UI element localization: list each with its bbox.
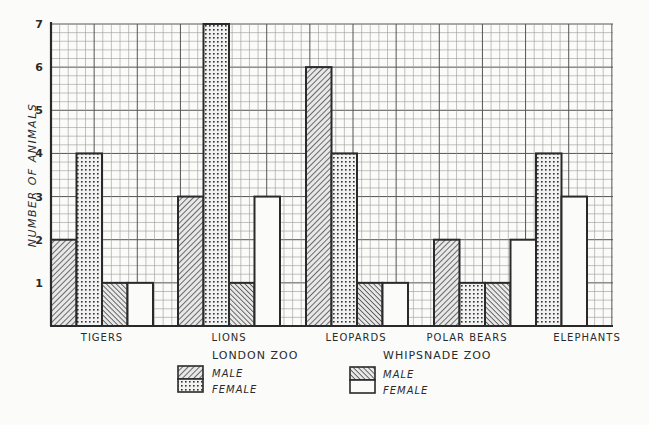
x-tick-label: LEOPARDS: [326, 332, 387, 343]
bar-whipsnade-female-polar-bears: [511, 240, 537, 326]
bar-london-male-lions: [178, 197, 204, 326]
legend-label-whipsnade-male: MALE: [383, 369, 414, 380]
legend: LONDON ZOOWHIPSNADE ZOOMALEFEMALEMALEFEM…: [178, 349, 492, 396]
legend-title-whipsnade: WHIPSNADE ZOO: [383, 349, 492, 362]
bar-london-male-polar-bears: [434, 240, 460, 326]
bar-whipsnade-male-leopards: [357, 283, 383, 326]
bar-london-female-polar-bears: [460, 283, 486, 326]
y-tick-label: 7: [35, 18, 43, 31]
bars: [51, 24, 587, 326]
bar-whipsnade-male-polar-bears: [485, 283, 511, 326]
bar-london-female-lions: [204, 24, 230, 326]
legend-label-london-male: MALE: [212, 368, 243, 379]
bar-london-male-leopards: [306, 67, 332, 326]
legend-label-london-female: FEMALE: [212, 384, 257, 395]
y-axis-label: NUMBER OF ANIMALS: [26, 103, 39, 248]
bar-london-female-elephants: [536, 153, 562, 326]
bar-london-female-leopards: [332, 153, 358, 326]
bar-whipsnade-male-tigers: [102, 283, 128, 326]
bar-whipsnade-female-lions: [255, 197, 281, 326]
y-tick-label: 6: [35, 61, 43, 74]
bar-london-female-tigers: [77, 153, 103, 326]
legend-title-london: LONDON ZOO: [212, 349, 298, 362]
bar-whipsnade-female-elephants: [562, 197, 588, 326]
x-tick-label: POLAR BEARS: [427, 332, 508, 343]
x-tick-label: LIONS: [211, 332, 246, 343]
bar-whipsnade-male-lions: [229, 283, 255, 326]
legend-label-whipsnade-female: FEMALE: [383, 385, 428, 396]
legend-swatch-london-male: [178, 366, 203, 379]
bar-chart: 1234567TIGERSLIONSLEOPARDSPOLAR BEARSELE…: [0, 0, 649, 425]
x-tick-label: TIGERS: [80, 332, 123, 343]
x-tick-label: ELEPHANTS: [553, 332, 621, 343]
y-tick-label: 1: [35, 277, 43, 290]
bar-whipsnade-female-tigers: [128, 283, 154, 326]
legend-swatch-whipsnade-female: [350, 380, 375, 393]
legend-swatch-london-female: [178, 379, 203, 392]
bar-whipsnade-female-leopards: [383, 283, 409, 326]
legend-swatch-whipsnade-male: [350, 367, 375, 380]
bar-london-male-tigers: [51, 240, 77, 326]
